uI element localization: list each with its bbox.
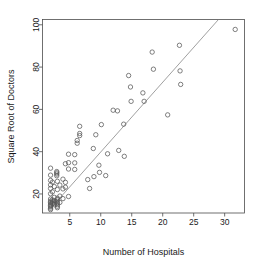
data-point <box>66 167 70 171</box>
y-tick-label: 40 <box>31 147 41 157</box>
data-point <box>105 152 109 156</box>
x-tick-label: 10 <box>96 217 106 227</box>
y-axis-ticks: 20406080100 <box>31 17 43 198</box>
data-point <box>86 177 90 181</box>
data-point <box>75 141 79 145</box>
data-point <box>92 174 96 178</box>
data-point <box>177 43 181 47</box>
x-tick-label: 5 <box>67 217 72 227</box>
y-tick-label: 80 <box>31 62 41 72</box>
data-point <box>73 161 77 165</box>
y-axis-title: Square Root of Doctors <box>6 69 16 164</box>
data-point <box>66 194 70 198</box>
data-point <box>111 108 115 112</box>
data-point <box>165 113 169 117</box>
data-point <box>117 148 121 152</box>
data-point <box>48 166 52 170</box>
data-point <box>73 167 77 171</box>
x-tick-label: 15 <box>127 217 137 227</box>
data-point <box>97 163 101 167</box>
data-point <box>129 99 133 103</box>
data-point <box>61 196 65 200</box>
y-tick-label: 20 <box>31 189 41 199</box>
x-tick-label: 20 <box>158 217 168 227</box>
data-point <box>126 73 130 77</box>
y-tick-label: 60 <box>31 104 41 114</box>
data-point <box>48 173 52 177</box>
data-point <box>91 146 95 150</box>
data-point <box>178 69 182 73</box>
y-tick-label: 100 <box>31 17 41 31</box>
data-point <box>77 124 81 128</box>
data-point <box>97 170 101 174</box>
data-point <box>128 85 132 89</box>
data-point <box>87 186 91 190</box>
data-point <box>151 67 155 71</box>
data-point <box>63 180 67 184</box>
data-point <box>150 50 154 54</box>
scatter-plot-figure: 20406080100 51015202530 Number of Hospit… <box>0 0 261 263</box>
data-point <box>141 91 145 95</box>
x-axis-title: Number of Hospitals <box>103 247 185 257</box>
data-point <box>66 152 70 156</box>
data-point <box>73 152 77 156</box>
data-points-layer <box>48 27 237 212</box>
x-tick-label: 30 <box>220 217 230 227</box>
data-point <box>233 27 237 31</box>
x-tick-label: 25 <box>189 217 199 227</box>
data-point <box>99 122 103 126</box>
data-point <box>104 173 108 177</box>
x-axis-ticks: 51015202530 <box>67 213 229 227</box>
data-point <box>122 154 126 158</box>
data-point <box>94 133 98 137</box>
plot-canvas: 20406080100 51015202530 Number of Hospit… <box>0 0 261 263</box>
data-point <box>55 187 59 191</box>
data-point <box>178 82 182 86</box>
data-point <box>58 183 62 187</box>
data-point <box>115 109 119 113</box>
regression-line <box>50 20 219 210</box>
